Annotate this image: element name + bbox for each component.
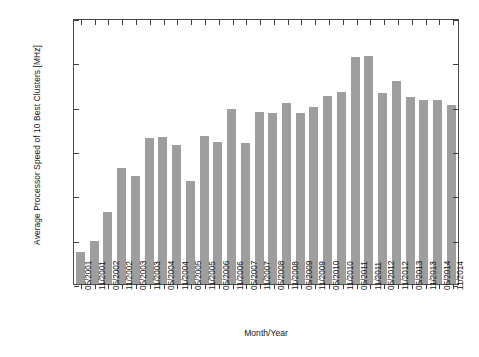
y-tick-mark	[74, 286, 79, 287]
x-tick-mark	[246, 284, 247, 289]
y-axis-title: Average Processor Speed of 10 Best Clust…	[32, 5, 42, 285]
x-tick-label: 05/2003	[138, 261, 148, 290]
x-tick-mark	[81, 284, 82, 289]
x-tick-mark-top	[274, 20, 275, 25]
x-tick-mark-top	[384, 20, 385, 25]
x-tick-mark-top	[329, 20, 330, 25]
x-tick-mark-top	[191, 20, 192, 25]
x-tick-mark-top	[108, 20, 109, 25]
x-tick-mark-top	[122, 20, 123, 25]
x-tick-mark	[357, 284, 358, 289]
x-tick-label: 11/2005	[207, 261, 217, 290]
bar	[351, 57, 360, 284]
x-tick-label: 11/2011	[373, 262, 383, 290]
x-tick-mark-top	[288, 20, 289, 25]
x-tick-mark	[274, 284, 275, 289]
y-tick-mark	[74, 242, 79, 243]
bar	[337, 92, 346, 284]
bar	[227, 109, 236, 284]
y-tick-mark-right	[453, 242, 458, 243]
x-tick-mark	[260, 284, 261, 289]
x-tick-mark-top	[412, 20, 413, 25]
x-tick-mark-top	[177, 20, 178, 25]
x-tick-mark-top	[260, 20, 261, 25]
plot-area: 050010001500200025003000	[73, 19, 459, 285]
bar	[378, 93, 387, 284]
x-tick-mark	[136, 284, 137, 289]
x-tick-label: 05/2010	[331, 261, 341, 290]
bar	[268, 113, 277, 284]
x-tick-label: 11/2014	[455, 261, 465, 290]
x-tick-label: 11/2013	[428, 261, 438, 290]
x-tick-label: 11/2012	[400, 261, 410, 290]
bar	[406, 97, 415, 284]
x-tick-mark	[398, 284, 399, 289]
x-tick-mark-top	[95, 20, 96, 25]
x-tick-mark	[95, 284, 96, 289]
x-tick-mark-top	[150, 20, 151, 25]
bar	[433, 100, 442, 284]
x-tick-label: 05/2013	[414, 261, 424, 290]
x-tick-label: 11/2003	[152, 261, 162, 290]
x-tick-mark-top	[205, 20, 206, 25]
x-tick-label: 11/2001	[97, 261, 107, 290]
bar-series	[74, 20, 458, 284]
x-tick-mark	[205, 284, 206, 289]
y-tick-mark	[74, 20, 79, 21]
x-tick-mark-top	[453, 20, 454, 25]
x-tick-label: 11/2006	[235, 261, 245, 290]
x-tick-label: 05/2007	[249, 261, 259, 290]
x-tick-label: 05/2011	[359, 261, 369, 290]
x-tick-mark	[108, 284, 109, 289]
x-tick-mark	[233, 284, 234, 289]
x-tick-mark-top	[426, 20, 427, 25]
y-tick-mark-right	[453, 153, 458, 154]
bar	[419, 100, 428, 284]
x-tick-mark	[370, 284, 371, 289]
x-tick-label: 11/2007	[262, 261, 272, 290]
x-tick-mark-top	[81, 20, 82, 25]
x-tick-mark	[412, 284, 413, 289]
bar	[255, 112, 264, 284]
x-tick-mark	[439, 284, 440, 289]
x-tick-mark-top	[219, 20, 220, 25]
x-tick-mark	[301, 284, 302, 289]
y-tick-mark-right	[453, 64, 458, 65]
x-tick-mark-top	[439, 20, 440, 25]
y-tick-mark-right	[453, 197, 458, 198]
y-tick-mark	[74, 109, 79, 110]
x-tick-label: 05/2002	[111, 261, 121, 290]
x-tick-mark	[343, 284, 344, 289]
x-tick-mark-top	[136, 20, 137, 25]
x-tick-mark	[219, 284, 220, 289]
x-tick-mark	[164, 284, 165, 289]
bar	[364, 56, 373, 284]
x-tick-label: 11/2004	[180, 261, 190, 290]
x-tick-mark-top	[398, 20, 399, 25]
x-tick-mark-top	[343, 20, 344, 25]
x-tick-mark	[177, 284, 178, 289]
x-tick-mark-top	[357, 20, 358, 25]
bar	[282, 103, 291, 284]
x-tick-label: 11/2008	[290, 261, 300, 290]
bar	[447, 105, 456, 284]
x-tick-mark	[426, 284, 427, 289]
x-tick-mark	[288, 284, 289, 289]
bar	[296, 113, 305, 284]
x-tick-mark	[453, 284, 454, 289]
x-tick-label: 05/2012	[386, 261, 396, 290]
bar	[309, 107, 318, 284]
y-tick-mark	[74, 197, 79, 198]
x-tick-label: 11/2010	[345, 261, 355, 290]
x-tick-label: 11/2009	[317, 261, 327, 290]
x-tick-label: 05/2009	[304, 261, 314, 290]
y-tick-mark-right	[453, 109, 458, 110]
x-tick-label: 05/2008	[276, 261, 286, 290]
x-tick-mark	[150, 284, 151, 289]
x-tick-mark-top	[370, 20, 371, 25]
x-tick-mark-top	[301, 20, 302, 25]
x-tick-label: 05/2005	[193, 261, 203, 290]
x-tick-label: 05/2014	[442, 261, 452, 290]
bar	[323, 96, 332, 284]
bar	[392, 81, 401, 284]
